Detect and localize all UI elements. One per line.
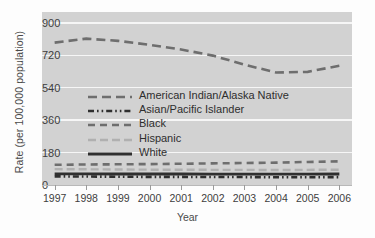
y-axis-title: Rate (per 100,000 population) [13, 0, 25, 205]
series-line [55, 169, 340, 170]
x-tick-label: 2001 [164, 192, 198, 204]
x-tick [213, 185, 214, 190]
legend-swatch [88, 132, 132, 144]
x-tick [276, 185, 277, 190]
series-line [55, 39, 340, 73]
x-tick-label: 1999 [101, 192, 135, 204]
legend-item[interactable]: American Indian/Alaska Native [88, 88, 289, 102]
x-tick-label: 1997 [38, 192, 72, 204]
line-chart: Rate (per 100,000 population) 0180360540… [0, 0, 375, 238]
x-tick [244, 185, 245, 190]
legend-item[interactable]: Black [88, 116, 289, 130]
x-tick [339, 185, 340, 190]
x-tick [118, 185, 119, 190]
x-tick-label: 2002 [196, 192, 230, 204]
y-tick-label: 360 [42, 114, 60, 126]
y-tick-label: 180 [42, 147, 60, 159]
legend-label: White [139, 146, 167, 158]
legend-swatch [88, 103, 132, 115]
legend-label: Black [139, 117, 166, 129]
y-tick-label: 720 [42, 49, 60, 61]
legend-label: American Indian/Alaska Native [139, 89, 289, 101]
series-line [55, 176, 340, 177]
x-tick [308, 185, 309, 190]
x-tick-label: 2000 [133, 192, 167, 204]
legend-item[interactable]: White [88, 145, 289, 159]
legend-swatch [88, 89, 132, 101]
legend-label: Hispanic [139, 132, 181, 144]
x-axis-line [42, 185, 352, 186]
y-tick-label: 900 [42, 17, 60, 29]
x-tick-label: 2004 [259, 192, 293, 204]
chart-legend: American Indian/Alaska NativeAsian/Pacif… [88, 88, 289, 159]
x-tick-label: 2003 [227, 192, 261, 204]
legend-item[interactable]: Hispanic [88, 131, 289, 145]
x-axis-title: Year [0, 211, 375, 223]
legend-label: Asian/Pacific Islander [139, 103, 244, 115]
x-tick [150, 185, 151, 190]
series-line [55, 161, 340, 164]
x-tick-label: 1998 [69, 192, 103, 204]
y-tick-label: 540 [42, 82, 60, 94]
legend-swatch [88, 117, 132, 129]
x-tick-label: 2005 [291, 192, 325, 204]
x-tick [55, 185, 56, 190]
x-tick-label: 2006 [322, 192, 356, 204]
legend-item[interactable]: Asian/Pacific Islander [88, 102, 289, 116]
x-tick [86, 185, 87, 190]
legend-swatch [88, 146, 132, 158]
x-tick [181, 185, 182, 190]
